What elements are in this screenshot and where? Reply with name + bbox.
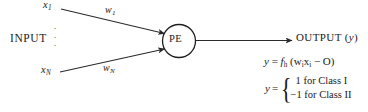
weight-label-wn-name: w — [103, 62, 110, 73]
cases-row-list: 1 for Class I −1 for Class II — [296, 74, 352, 101]
input-variable-x1-name: x — [43, 0, 48, 10]
output-label-paren: ) — [354, 31, 358, 43]
weight-label-w1: w1 — [105, 4, 115, 17]
cases-row-class-2: −1 for Class II — [291, 88, 352, 102]
processing-element-label: PE — [169, 33, 182, 44]
perceptron-diagram: INPUT ··· x1 xN w1 wN PE OUTPUT (y) y = … — [0, 0, 368, 112]
cases-lhs: y — [265, 82, 270, 94]
output-label: OUTPUT (y) — [296, 31, 358, 43]
weight-label-w1-name: w — [105, 4, 112, 15]
input-label: INPUT — [10, 32, 47, 44]
equation-open-weight: (w — [287, 55, 301, 67]
equation-equals: = — [269, 55, 281, 67]
input-variable-xn-name: x — [41, 64, 46, 75]
weight-label-wn-subscript: N — [110, 67, 115, 75]
weight-label-wn: wN — [103, 62, 115, 75]
input-ellipsis-dots: ··· — [52, 24, 58, 50]
output-label-text: OUTPUT ( — [296, 31, 349, 43]
weight-label-w1-subscript: 1 — [112, 9, 116, 17]
cases-equals: = — [272, 82, 278, 94]
input-variable-xn: xN — [41, 64, 51, 77]
transfer-function-equation: y = fh (wixi − O) — [264, 55, 334, 69]
equation-threshold-term: − O) — [311, 55, 334, 67]
cases-row-class-1: 1 for Class I — [296, 74, 352, 88]
output-cases-equation: y = { 1 for Class I −1 for Class II — [265, 74, 352, 101]
input-variable-x1-subscript: 1 — [48, 4, 52, 12]
input-variable-xn-subscript: N — [46, 69, 51, 77]
input-variable-x1: x1 — [43, 0, 52, 12]
